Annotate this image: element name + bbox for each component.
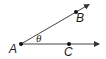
label-c: C [64, 45, 73, 59]
point-a [19, 42, 23, 46]
angle-diagram: A B C θ [0, 0, 106, 59]
label-a: A [8, 42, 17, 56]
angle-theta-label: θ [36, 32, 42, 44]
label-b: B [76, 11, 84, 25]
